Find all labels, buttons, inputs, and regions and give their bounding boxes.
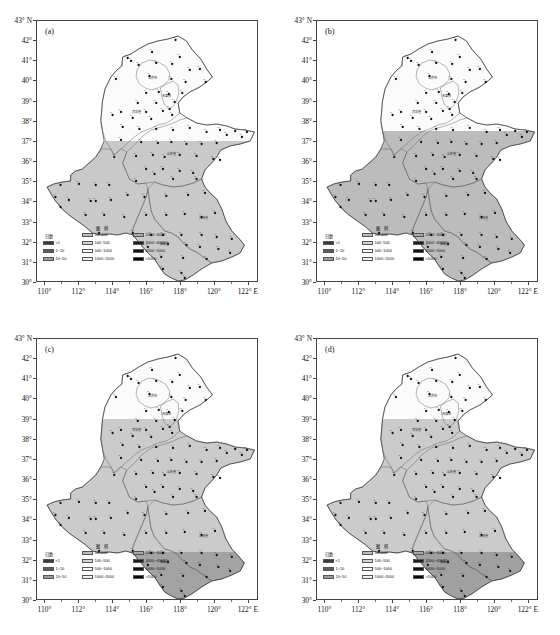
svg-text:▪▪: ▪▪ xyxy=(513,127,515,129)
x-axis-minor-tick xyxy=(95,282,96,284)
legend-item: <1 xyxy=(323,241,340,245)
svg-text:江苏省: 江苏省 xyxy=(199,215,208,220)
legend-label: <1 xyxy=(336,559,340,563)
svg-text:▪▪: ▪▪ xyxy=(402,213,404,215)
x-axis-minor-tick xyxy=(375,282,376,284)
svg-text:▪▪: ▪▪ xyxy=(144,211,146,213)
svg-text:▪▪: ▪▪ xyxy=(170,378,172,380)
svg-text:▪▪: ▪▪ xyxy=(152,488,154,490)
svg-text:▪▪: ▪▪ xyxy=(400,441,402,443)
x-axis-label: 112° xyxy=(71,605,85,614)
legend-label: 3000~4000 xyxy=(426,559,446,563)
legend-label: 1000~2000 xyxy=(95,257,115,261)
x-axis-label: 112° xyxy=(71,287,85,296)
legend-label: 1000~2000 xyxy=(95,575,115,579)
svg-text:▪▪: ▪▪ xyxy=(129,375,131,377)
legend-label: <1 xyxy=(336,241,340,245)
svg-text:江苏省: 江苏省 xyxy=(479,215,488,220)
svg-text:▪▪: ▪▪ xyxy=(479,140,481,142)
svg-text:▪▪: ▪▪ xyxy=(457,485,459,487)
legend-label: 500~1000 xyxy=(95,567,112,571)
legend-swatch xyxy=(362,257,373,261)
legend-swatch xyxy=(362,233,373,237)
svg-text:▪▪: ▪▪ xyxy=(233,127,235,129)
legend-item: >5000 xyxy=(133,575,156,579)
legend-item: 2000~3000 xyxy=(413,551,445,555)
svg-text:▪▪: ▪▪ xyxy=(434,59,436,61)
svg-text:▪▪: ▪▪ xyxy=(114,75,116,77)
svg-text:▪▪: ▪▪ xyxy=(186,509,188,511)
x-axis-label: 118° xyxy=(453,287,467,296)
y-axis-label: 41° xyxy=(22,56,32,65)
x-axis-label: 116° xyxy=(419,605,433,614)
svg-text:▪▪: ▪▪ xyxy=(203,78,205,80)
figure-sheet: 43° N42°41°40°39°38°37°36°35°34°33°32°31… xyxy=(0,0,560,635)
svg-text:▪▪: ▪▪ xyxy=(139,456,141,458)
legend-item: 500~1000 xyxy=(362,249,392,253)
svg-text:▪▪: ▪▪ xyxy=(449,138,451,140)
svg-text:▪▪: ▪▪ xyxy=(430,151,432,153)
svg-text:▪▪: ▪▪ xyxy=(136,61,138,63)
svg-text:▪▪: ▪▪ xyxy=(450,60,452,62)
svg-text:▪▪: ▪▪ xyxy=(457,167,459,169)
x-axis-label: 116° xyxy=(139,605,153,614)
svg-text:▪▪: ▪▪ xyxy=(388,514,390,516)
svg-text:▪▪: ▪▪ xyxy=(347,514,349,516)
svg-text:▪▪: ▪▪ xyxy=(218,126,220,128)
legend-item: 1~10 xyxy=(323,249,344,253)
svg-text:▪▪: ▪▪ xyxy=(198,65,200,67)
svg-text:▪▪: ▪▪ xyxy=(357,180,359,182)
x-axis-label: 120° xyxy=(207,605,221,614)
svg-text:山东省: 山东省 xyxy=(447,151,456,156)
legend-label: 2000~3000 xyxy=(426,551,446,555)
x-axis-minor-tick xyxy=(443,282,444,284)
svg-text:▪▪: ▪▪ xyxy=(167,423,169,425)
legend-label: >5000 xyxy=(426,575,437,579)
svg-text:▪▪: ▪▪ xyxy=(451,444,453,446)
legend-label: 500~1000 xyxy=(375,249,392,253)
svg-text:▪▪: ▪▪ xyxy=(474,175,476,177)
x-axis-tick xyxy=(324,282,325,285)
svg-text:▪▪: ▪▪ xyxy=(171,493,173,495)
svg-text:▪▪: ▪▪ xyxy=(444,529,446,531)
svg-text:▪▪: ▪▪ xyxy=(169,138,171,140)
svg-text:▪▪: ▪▪ xyxy=(177,53,179,55)
svg-text:▪▪: ▪▪ xyxy=(198,561,200,563)
y-axis-label: 37° xyxy=(302,454,312,463)
svg-text:▪▪: ▪▪ xyxy=(387,499,389,501)
y-axis-label: 33° xyxy=(22,535,32,544)
svg-text:▪▪: ▪▪ xyxy=(405,54,407,56)
legend-swatch xyxy=(82,559,93,563)
y-axis-label: 40° xyxy=(302,394,312,403)
y-axis-label: 37° xyxy=(22,136,32,145)
y-axis-label: 33° xyxy=(22,217,32,226)
svg-text:▪▪: ▪▪ xyxy=(203,189,205,191)
svg-text:▪▪: ▪▪ xyxy=(493,527,495,529)
svg-text:▪▪: ▪▪ xyxy=(373,499,375,501)
svg-text:▪▪: ▪▪ xyxy=(450,378,452,380)
svg-text:▪▪: ▪▪ xyxy=(144,89,146,91)
legend-item: 10~50 xyxy=(43,257,66,261)
svg-text:▪▪: ▪▪ xyxy=(187,442,189,444)
svg-text:▪▪: ▪▪ xyxy=(194,175,196,177)
svg-text:▪▪: ▪▪ xyxy=(414,177,416,179)
svg-text:▪▪: ▪▪ xyxy=(134,177,136,179)
svg-text:▪▪: ▪▪ xyxy=(333,193,335,195)
svg-text:▪▪: ▪▪ xyxy=(415,99,417,101)
legend-label: 10~50 xyxy=(336,575,347,579)
legend-label: 4000~5000 xyxy=(426,567,446,571)
svg-text:▪▪: ▪▪ xyxy=(150,469,152,471)
svg-text:▪▪: ▪▪ xyxy=(479,458,481,460)
x-axis-tick xyxy=(112,600,113,603)
svg-text:▪▪: ▪▪ xyxy=(333,511,335,513)
svg-text:▪▪: ▪▪ xyxy=(164,529,166,531)
legend-item: >5000 xyxy=(133,257,156,261)
svg-text:▪▪: ▪▪ xyxy=(166,90,168,92)
legend-label: 50~100 xyxy=(95,233,108,237)
panel-a: 43° N42°41°40°39°38°37°36°35°34°33°32°31… xyxy=(0,0,280,317)
svg-text:▪▪: ▪▪ xyxy=(199,231,201,233)
legend-item: 1000~2000 xyxy=(82,257,114,261)
svg-text:▪▪: ▪▪ xyxy=(441,165,443,167)
svg-text:▪▪: ▪▪ xyxy=(150,151,152,153)
svg-text:▪▪: ▪▪ xyxy=(498,474,500,476)
